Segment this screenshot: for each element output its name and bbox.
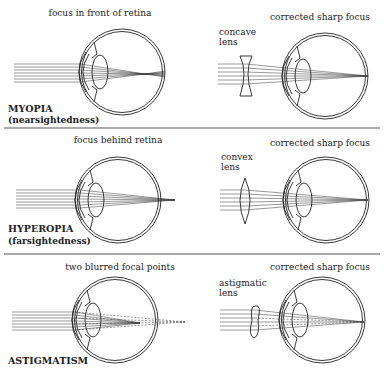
myopia-eye bbox=[79, 29, 165, 115]
hyperopia-subtitle: (farsightedness) bbox=[8, 236, 91, 246]
hyperopia-problem-caption: focus behind retina bbox=[74, 135, 163, 145]
convex-lens-label-2: lens bbox=[221, 162, 240, 172]
refraction-diagram: focus in front of retina MYOPIA (nearsig… bbox=[0, 0, 384, 377]
astigmatism-label: ASTIGMATISM bbox=[7, 355, 89, 366]
hyperopia-rays bbox=[16, 190, 175, 208]
myopia-corrected-rays bbox=[218, 64, 368, 84]
convex-lens bbox=[240, 178, 250, 224]
hyperopia-panel: focus behind retina HYPEROPIA (farsighte… bbox=[8, 135, 370, 246]
concave-lens-label-2: lens bbox=[219, 37, 238, 47]
myopia-corrected-caption: corrected sharp focus bbox=[270, 12, 370, 22]
hyperopia-eye bbox=[75, 157, 161, 243]
astigmatism-problem-caption: two blurred focal points bbox=[65, 262, 175, 272]
astigmatism-panel: two blurred focal points ASTIGMATISM cor… bbox=[7, 262, 370, 366]
astigmatism-rays bbox=[12, 312, 185, 330]
concave-lens-label-1: concave bbox=[219, 27, 256, 37]
astigmatic-lens-label-1: astigmatic bbox=[219, 278, 267, 288]
hyperopia-corrected-rays bbox=[220, 190, 368, 210]
astigmatism-corrected-caption: corrected sharp focus bbox=[270, 262, 370, 272]
astigmatism-corrected-eye bbox=[279, 277, 365, 363]
myopia-label: MYOPIA bbox=[8, 103, 53, 114]
astigmatic-lens-label-2: lens bbox=[219, 288, 238, 298]
myopia-subtitle: (nearsightedness) bbox=[8, 115, 99, 125]
convex-lens-label-1: convex bbox=[221, 152, 253, 162]
hyperopia-label: HYPEROPIA bbox=[8, 223, 74, 234]
myopia-rays bbox=[14, 64, 165, 82]
myopia-problem-caption: focus in front of retina bbox=[49, 8, 152, 18]
myopia-panel: focus in front of retina MYOPIA (nearsig… bbox=[8, 8, 370, 125]
hyperopia-corrected-caption: corrected sharp focus bbox=[270, 138, 370, 148]
